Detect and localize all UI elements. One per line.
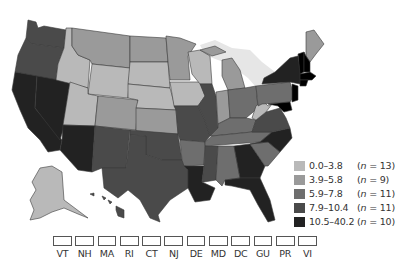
small-state-swatch xyxy=(98,236,117,246)
legend-swatch-4 xyxy=(294,217,305,227)
small-state-label: GU xyxy=(256,248,270,259)
legend-count: (n = 11) xyxy=(357,188,395,199)
small-state-label: DE xyxy=(190,248,203,259)
legend-range: 3.9–5.8 xyxy=(309,174,357,185)
state-ia xyxy=(170,82,205,106)
legend-row: 10.5–40.2 (n = 10) xyxy=(294,215,400,228)
small-state-item: GU xyxy=(254,236,273,259)
small-state-swatch xyxy=(164,236,183,246)
small-state-label: RI xyxy=(125,248,134,259)
small-states-legend: VT NH MA RI CT NJ DE MD DC GU PR VI xyxy=(53,236,320,259)
small-state-item: DE xyxy=(187,236,206,259)
state-fl xyxy=(225,178,275,222)
small-state-swatch xyxy=(254,236,273,246)
small-state-label: VI xyxy=(303,248,312,259)
state-wy xyxy=(88,64,130,98)
legend-count: (n = 9) xyxy=(357,174,389,185)
small-state-swatch xyxy=(53,236,72,246)
small-state-swatch xyxy=(209,236,228,246)
small-state-label: MD xyxy=(211,248,226,259)
state-ct xyxy=(300,80,308,86)
state-nd xyxy=(130,36,168,62)
state-sd xyxy=(128,62,170,88)
state-me xyxy=(306,30,324,62)
small-state-item: PR xyxy=(276,236,295,259)
legend-swatch-1 xyxy=(294,175,305,185)
legend-swatch-3 xyxy=(294,203,305,213)
small-state-label: PR xyxy=(279,248,291,259)
state-ar xyxy=(180,140,205,166)
state-az xyxy=(60,125,95,172)
small-state-item: NH xyxy=(75,236,94,259)
small-state-item: VI xyxy=(298,236,317,259)
small-state-label: VT xyxy=(56,248,68,259)
small-state-swatch xyxy=(231,236,250,246)
legend-range: 7.9–10.4 xyxy=(309,202,357,213)
small-state-swatch xyxy=(142,236,161,246)
state-nm xyxy=(92,126,130,172)
small-state-label: NH xyxy=(78,248,92,259)
small-state-item: NJ xyxy=(164,236,183,259)
small-state-label: NJ xyxy=(169,248,178,259)
legend-row: 5.9–7.8 (n = 11) xyxy=(294,187,400,200)
state-wi xyxy=(188,50,212,84)
small-state-label: CT xyxy=(146,248,158,259)
legend-row: 0.0–3.8 (n = 13) xyxy=(294,159,400,172)
state-ks xyxy=(136,108,178,134)
legend-count: (n = 10) xyxy=(357,216,395,227)
legend-swatch-2 xyxy=(294,189,305,199)
small-state-swatch xyxy=(75,236,94,246)
small-state-item: CT xyxy=(142,236,161,259)
legend-swatch-0 xyxy=(294,161,305,171)
state-ma xyxy=(300,72,316,80)
legend-range: 5.9–7.8 xyxy=(309,188,357,199)
small-state-swatch xyxy=(120,236,139,246)
small-state-item: VT xyxy=(53,236,72,259)
legend-row: 3.9–5.8 (n = 9) xyxy=(294,173,400,186)
legend-count: (n = 13) xyxy=(357,160,395,171)
small-state-label: MA xyxy=(100,248,114,259)
legend-count: (n = 11) xyxy=(357,202,395,213)
small-state-item: MD xyxy=(209,236,228,259)
small-state-item: RI xyxy=(120,236,139,259)
state-nj xyxy=(292,84,298,102)
state-ak xyxy=(30,166,88,220)
legend-range: 10.5–40.2 xyxy=(309,216,357,227)
small-state-swatch xyxy=(276,236,295,246)
small-state-item: DC xyxy=(231,236,250,259)
legend: 0.0–3.8 (n = 13) 3.9–5.8 (n = 9) 5.9–7.8… xyxy=(294,159,400,229)
small-state-swatch xyxy=(298,236,317,246)
legend-range: 0.0–3.8 xyxy=(309,160,357,171)
state-co xyxy=(95,96,138,130)
small-state-label: DC xyxy=(234,248,247,259)
small-state-swatch xyxy=(187,236,206,246)
legend-row: 7.9–10.4 (n = 11) xyxy=(294,201,400,214)
small-state-item: MA xyxy=(98,236,117,259)
